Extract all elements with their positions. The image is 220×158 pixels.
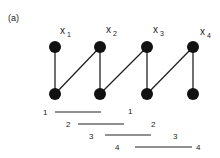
edge-x3-x4-diagonal xyxy=(147,47,193,94)
interval-2-right-label: 2 xyxy=(151,120,156,129)
node-x1-bottom xyxy=(49,88,61,100)
interval-4-left-label: 4 xyxy=(115,143,120,152)
vertex-labels: x1 x2 x3 x4 xyxy=(60,24,211,39)
interval-3-left-label: 3 xyxy=(89,132,94,141)
edge-x2-x3-diagonal xyxy=(100,47,147,94)
vertex-label-x2: x2 xyxy=(106,24,117,37)
interval-graph-diagram: (a) x1 x2 x3 x4 1 1 2 2 3 3 xyxy=(0,0,220,158)
node-x2-top xyxy=(94,41,106,53)
interval-3-right-label: 3 xyxy=(173,132,178,141)
interval-1-left-label: 1 xyxy=(43,108,48,117)
node-x2-bottom xyxy=(94,88,106,100)
graph-edges xyxy=(55,47,193,94)
node-x1-top xyxy=(49,41,61,53)
panel-label: (a) xyxy=(8,13,19,23)
node-x4-top xyxy=(187,41,199,53)
node-x3-top xyxy=(141,41,153,53)
vertex-label-x4: x4 xyxy=(200,26,211,39)
interval-2-left-label: 2 xyxy=(66,120,71,129)
vertex-label-x3: x3 xyxy=(153,24,164,37)
interval-4-right-label: 4 xyxy=(196,143,201,152)
vertex-label-x1: x1 xyxy=(60,25,71,38)
node-x4-bottom xyxy=(187,88,199,100)
interval-representation: 1 1 2 2 3 3 4 4 xyxy=(43,107,201,152)
interval-1-right-label: 1 xyxy=(128,107,133,116)
node-x3-bottom xyxy=(141,88,153,100)
edge-x1-x2-diagonal xyxy=(55,47,100,94)
